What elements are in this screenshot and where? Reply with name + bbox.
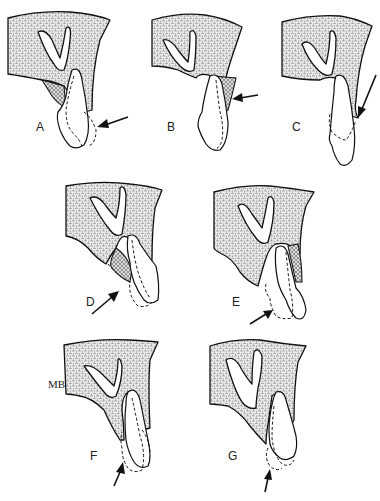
panel-g: G: [210, 340, 306, 492]
panel-d: D: [66, 182, 162, 314]
panel-b: B: [152, 14, 258, 150]
panel-label: D: [86, 295, 95, 309]
arrow-icon: [97, 117, 128, 128]
panel-label: F: [90, 449, 97, 463]
diagram-canvas: A B C D: [0, 0, 380, 501]
arrow-icon: [232, 93, 258, 102]
panel-label: E: [232, 295, 240, 309]
panel-c: C: [282, 16, 376, 166]
panel-label: G: [228, 449, 237, 463]
panel-label: A: [36, 120, 44, 134]
panel-label: C: [292, 120, 301, 134]
arrow-icon: [92, 291, 119, 314]
mb-label: MB: [48, 378, 65, 390]
panel-a: A: [8, 12, 128, 148]
arrow-icon: [250, 310, 273, 324]
arrow-icon: [264, 469, 272, 492]
panel-e: E: [214, 186, 314, 324]
arrow-icon: [358, 75, 376, 118]
arrow-icon: [114, 462, 125, 486]
panel-f: MB F: [48, 340, 158, 486]
panel-label: B: [167, 120, 175, 134]
